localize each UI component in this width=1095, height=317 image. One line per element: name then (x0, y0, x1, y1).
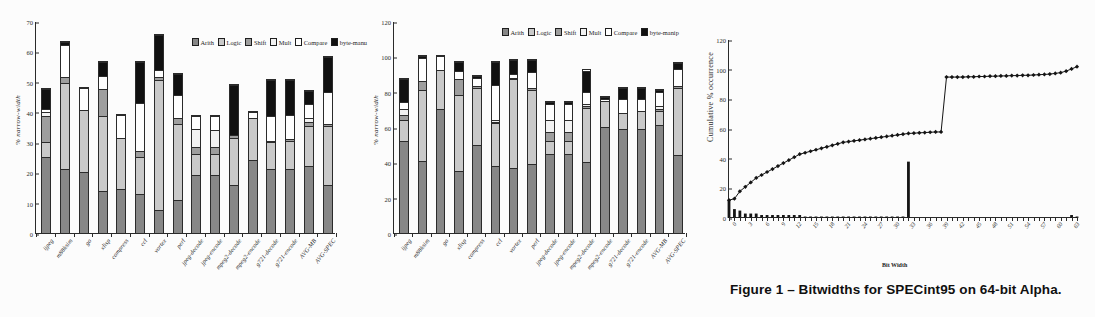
x-label-54: 54 (1023, 221, 1031, 229)
chart-a-legend: ArithLogicShiftMultComparebyte-manu (192, 38, 367, 46)
bar-segment-logic (656, 111, 664, 125)
x-label-48: 48 (990, 221, 998, 229)
chart-b-legend: ArithLogicShiftMultComparebyte-manip (502, 28, 679, 36)
legend-item-byte: byte-manip (641, 28, 679, 36)
bar-segment-logic (619, 113, 627, 129)
bar-segment-arith (305, 166, 313, 233)
bar-segment-logic (674, 88, 682, 155)
y-tick-100: 100 (716, 66, 729, 73)
bar-m88ksim (60, 41, 70, 233)
y-tick-60: 60 (27, 49, 37, 56)
bar-segment-compare (174, 95, 182, 118)
bar-AVG-MB (655, 89, 665, 233)
bar-segment-arith (192, 175, 200, 233)
x-label-60: 60 (1056, 221, 1064, 229)
legend-item-mult: Mult (580, 28, 601, 36)
bar-segment-arith (286, 169, 294, 233)
bar-segment-compare (155, 70, 163, 78)
bar-segment-shift (419, 81, 427, 90)
x-tick (686, 233, 687, 237)
x-tick (811, 217, 812, 221)
x-tick (317, 233, 318, 237)
occurrence-histogram (728, 162, 1079, 218)
x-tick (1017, 217, 1018, 221)
x-label-45: 45 (974, 221, 982, 229)
x-tick (280, 233, 281, 237)
legend-item-compare: Compare (605, 28, 637, 36)
x-tick (431, 233, 432, 237)
bar-segment-shift (211, 147, 219, 155)
bar-segment-compare (61, 45, 69, 77)
x-tick (504, 233, 505, 237)
x-tick (595, 233, 596, 237)
x-label-m88ksim: m88ksim (411, 237, 430, 259)
x-tick (968, 217, 969, 221)
bar-segment-logic (528, 90, 536, 164)
x-label-go: go (440, 237, 449, 246)
bar-segment-byte-manu (230, 85, 238, 135)
bar-segment-arith (437, 109, 445, 233)
bar-segment-logic (492, 123, 500, 165)
x-tick (794, 217, 795, 221)
bar-segment-arith (601, 127, 609, 233)
x-tick (849, 217, 850, 221)
bar-segment-compare (565, 104, 573, 120)
x-tick (412, 233, 413, 237)
bar-segment-logic (267, 142, 275, 169)
bar-perl (173, 73, 183, 233)
x-label-9: 9 (780, 221, 787, 227)
y-tick-40: 40 (720, 155, 730, 162)
x-tick (854, 217, 855, 221)
bar-segment-logic (565, 141, 573, 153)
legend-swatch-compare-icon (605, 28, 612, 36)
x-label-39: 39 (941, 221, 949, 229)
bar-segment-compare (117, 115, 125, 138)
x-tick (1050, 217, 1051, 221)
bar-segment-arith (674, 155, 682, 233)
bar-segment-arith (117, 189, 125, 233)
bar-m88ksim (418, 55, 428, 233)
bar-ijpeg (399, 78, 409, 233)
x-tick (756, 217, 757, 221)
x-tick (898, 217, 899, 221)
bar-segment-byte-manip (583, 71, 591, 92)
bar-segment-compare (211, 116, 219, 130)
x-tick (1023, 217, 1024, 221)
y-tick-30: 30 (27, 140, 37, 147)
bar-segment-byte-manu (99, 62, 107, 76)
bar-jpeg-decode (191, 115, 201, 233)
bar-segment-byte-manip (528, 60, 536, 72)
bar-segment-logic (510, 79, 518, 167)
bar-segment-arith (324, 185, 332, 233)
x-tick (930, 217, 931, 221)
bar-segment-compare (99, 76, 107, 90)
x-label-63: 63 (1072, 221, 1080, 229)
bar-compress (472, 75, 482, 233)
x-tick (974, 217, 975, 221)
legend-label-shift: Shift (254, 39, 266, 46)
bar-segment-byte-manip (638, 88, 646, 99)
x-tick (631, 233, 632, 237)
y-tick-20: 20 (720, 185, 730, 192)
x-tick (522, 233, 523, 237)
x-label-go: go (83, 237, 92, 246)
bar-segment-arith (455, 171, 463, 233)
bar-segment-byte-manu (155, 35, 163, 70)
bar-segment-logic (583, 108, 591, 163)
legend-label-mult: Mult (279, 39, 291, 46)
bar-segment-byte-manip (455, 62, 463, 71)
x-tick (650, 233, 651, 237)
bar-mpeg2-decode (229, 84, 239, 233)
x-tick (957, 217, 958, 221)
bar-segment-logic (230, 138, 238, 185)
legend-item-compare: Compare (295, 38, 327, 46)
y-tick-120: 120 (381, 19, 394, 26)
x-tick (800, 217, 801, 221)
bar-perl (527, 59, 537, 233)
bar-g721-encode (637, 87, 647, 233)
chart-c-plot-area: 0369121518212427303336394245485154576063… (728, 40, 1076, 218)
chart-panel-right: Cumulative % occurrence 0369121518212427… (700, 0, 1095, 317)
x-tick (336, 233, 337, 237)
legend-item-shift: Shift (555, 28, 576, 36)
bar-jpeg-encode (564, 101, 574, 233)
